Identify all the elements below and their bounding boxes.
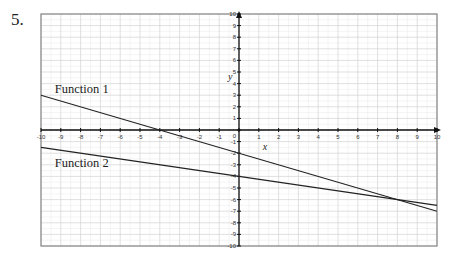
x-tick-label: -9 <box>58 134 64 140</box>
x-tick-label: 4 <box>317 134 321 140</box>
x-tick-label: -5 <box>137 134 143 140</box>
x-tick-label: -2 <box>197 134 203 140</box>
x-tick-label: 1 <box>257 134 261 140</box>
x-tick-label: -4 <box>157 134 163 140</box>
x-tick-label: 7 <box>376 134 380 140</box>
y-tick-label: -1 <box>231 139 237 145</box>
x-axis-label: x <box>262 141 268 152</box>
x-tick-label: -10 <box>37 134 46 140</box>
y-tick-label: -5 <box>231 185 237 191</box>
x-tick-label: -8 <box>78 134 84 140</box>
y-tick-label: 10 <box>229 11 236 17</box>
x-tick-label: -7 <box>98 134 104 140</box>
x-tick-label: 5 <box>336 134 340 140</box>
y-tick-label: -10 <box>227 243 236 249</box>
y-axis-label: y <box>227 71 233 82</box>
x-tick-label: 10 <box>434 134 441 140</box>
x-tick-label: 2 <box>277 134 281 140</box>
y-tick-label: -8 <box>231 220 237 226</box>
x-tick-label: 9 <box>416 134 420 140</box>
coordinate-plane-chart: -10-9-8-7-6-5-4-3-2-112345678910-10-9-8-… <box>0 0 451 260</box>
y-tick-label: -9 <box>231 231 237 237</box>
y-tick-label: -6 <box>231 197 237 203</box>
function-label-1: Function 1 <box>55 82 109 96</box>
x-tick-label: -1 <box>217 134 223 140</box>
axes <box>41 11 441 246</box>
x-tick-label: 8 <box>396 134 400 140</box>
function-label-2: Function 2 <box>55 156 109 170</box>
x-tick-label: 6 <box>356 134 360 140</box>
y-tick-label: -3 <box>231 162 237 168</box>
y-tick-label: -7 <box>231 208 237 214</box>
x-tick-label: -6 <box>118 134 124 140</box>
x-tick-label: 3 <box>297 134 301 140</box>
